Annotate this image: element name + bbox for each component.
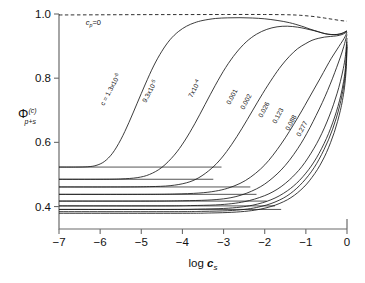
y-tick-label: 0.6 [35,136,51,148]
curve-label-curve-1: c = 1.3x10-6 [98,71,122,106]
chart-svg: 0.40.60.81.0−7−6−5−4−3−2−10c = 1.3x10-69… [0,0,365,283]
svg-text:log cs: log cs [189,257,218,272]
x-tick-label: −3 [217,236,230,248]
curve-curve-4 [59,33,347,195]
x-tick-label: −6 [94,236,107,248]
y-tick-label: 1.0 [35,8,51,20]
x-tick-label: −7 [52,236,65,248]
y-tick-label: 0.8 [35,72,51,84]
svg-text:0.088: 0.088 [284,113,298,131]
x-tick-label: −1 [299,236,312,248]
curve-label-curve-7: 0.123 [271,106,285,124]
svg-text:0.001: 0.001 [225,87,239,105]
svg-text:0.026: 0.026 [257,100,271,118]
svg-text:Φ(c)p+s: Φ(c)p+s [18,106,37,126]
x-tick-label: −5 [135,236,148,248]
y-axis-title: Φ(c)p+s [18,106,37,126]
curve-curve-1 [59,18,347,167]
svg-text:0.123: 0.123 [271,106,285,124]
curve-label-curve-8: 0.088 [284,113,298,131]
curve-label-curve-3: 7x10-4 [186,78,202,99]
x-tick-label: −2 [258,236,271,248]
x-tick-label: −4 [176,236,190,248]
curve-label-curve-5: 0.002 [239,92,253,110]
svg-text:0.002: 0.002 [239,92,253,110]
figure-container: 0.40.60.81.0−7−6−5−4−3−2−10c = 1.3x10-69… [0,0,365,283]
svg-text:7x10-4: 7x10-4 [186,78,202,99]
x-axis-title: log cs [189,257,218,272]
curve-label-curve-9: 0.277 [295,119,309,137]
annotation-cp-zero: cp=0 [86,18,101,28]
x-tick-label: 0 [344,236,350,248]
curve-label-curve-4: 0.001 [225,87,239,105]
svg-text:c = 1.3x10-6: c = 1.3x10-6 [98,71,122,106]
curve-label-curve-6: 0.026 [257,100,271,118]
y-tick-label: 0.4 [35,201,52,213]
svg-text:cp=0: cp=0 [86,18,101,28]
svg-text:0.277: 0.277 [295,119,309,137]
